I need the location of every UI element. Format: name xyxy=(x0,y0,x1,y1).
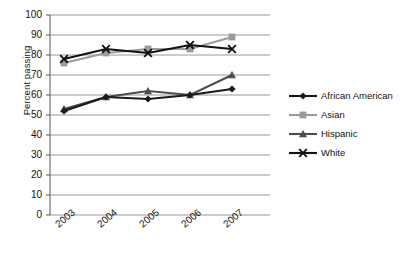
y-tick-label-40: 40 xyxy=(12,130,42,140)
legend-swatch-triangle-icon xyxy=(288,127,318,141)
legend-item-asian[interactable]: Asian xyxy=(288,105,404,124)
legend-label: Hispanic xyxy=(321,128,357,139)
x-axis-tick-labels: 20032004200520062007 xyxy=(50,215,270,254)
y-tick-label-50: 50 xyxy=(12,110,42,120)
data-point-marker-square xyxy=(300,111,307,118)
legend-item-hispanic[interactable]: Hispanic xyxy=(288,124,404,143)
y-tick-label-10: 10 xyxy=(12,190,42,200)
legend-item-white[interactable]: White xyxy=(288,143,404,162)
legend-label: White xyxy=(321,147,345,158)
series-asian xyxy=(61,34,236,67)
data-point-marker-diamond xyxy=(228,85,235,92)
line-chart: Percent passing 1009080706050403020100 2… xyxy=(0,0,405,254)
axis-lines xyxy=(46,15,50,215)
y-tick-label-0: 0 xyxy=(12,210,42,220)
y-tick-label-80: 80 xyxy=(12,50,42,60)
legend-label: Asian xyxy=(321,109,345,120)
series-layer xyxy=(60,34,236,115)
plot-area xyxy=(50,15,270,215)
legend-swatch-diamond-icon xyxy=(288,89,318,103)
y-tick-label-90: 90 xyxy=(12,30,42,40)
data-point-marker-square xyxy=(229,34,236,41)
gridlines xyxy=(50,15,270,215)
plot-svg xyxy=(50,15,270,215)
legend-swatch-square-icon xyxy=(288,108,318,122)
y-tick-label-60: 60 xyxy=(12,90,42,100)
chart-legend: African AmericanAsianHispanicWhite xyxy=(288,86,404,162)
legend-item-african-american[interactable]: African American xyxy=(288,86,404,105)
y-tick-label-30: 30 xyxy=(12,150,42,160)
legend-label: African American xyxy=(321,90,393,101)
y-axis-tick-labels: 1009080706050403020100 xyxy=(12,0,42,254)
data-point-marker-diamond xyxy=(299,92,306,99)
data-point-marker-diamond xyxy=(144,95,151,102)
y-tick-label-100: 100 xyxy=(12,10,42,20)
y-tick-label-20: 20 xyxy=(12,170,42,180)
legend-swatch-x-icon xyxy=(288,146,318,160)
y-tick-label-70: 70 xyxy=(12,70,42,80)
